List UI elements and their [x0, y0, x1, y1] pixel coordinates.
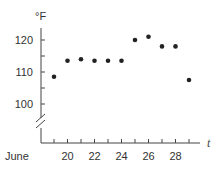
x-tick-label-20: 20 — [61, 150, 73, 162]
y-tick-label-120: 120 — [15, 34, 33, 46]
data-point — [173, 44, 178, 49]
y-tick-label-110: 110 — [15, 66, 33, 78]
data-point — [92, 59, 97, 64]
y-axis-unit-label: °F — [35, 10, 46, 22]
temperature-scatter-chart: °F 120 110 100 t June 20 22 24 26 28 — [0, 0, 223, 173]
data-point — [187, 78, 192, 83]
data-points — [52, 35, 192, 83]
y-ticks — [41, 40, 45, 104]
data-point — [146, 35, 151, 40]
x-tick-label-22: 22 — [88, 150, 100, 162]
data-point — [65, 59, 70, 64]
x-ticks — [54, 139, 189, 143]
x-tick-label-28: 28 — [169, 150, 181, 162]
data-point — [133, 38, 138, 43]
data-point — [119, 59, 124, 64]
x-axis-month-label: June — [5, 150, 29, 162]
data-point — [52, 75, 57, 80]
data-point — [79, 57, 84, 62]
x-tick-label-24: 24 — [115, 150, 127, 162]
data-point — [160, 44, 165, 49]
data-point — [106, 59, 111, 64]
x-axis-variable-label: t — [207, 136, 211, 150]
y-tick-label-100: 100 — [15, 98, 33, 110]
x-tick-label-26: 26 — [142, 150, 154, 162]
